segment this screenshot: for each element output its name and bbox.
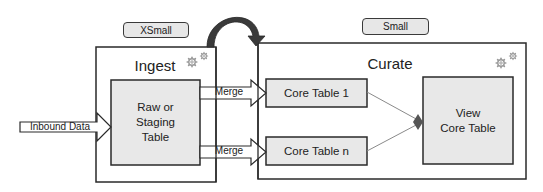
curved-promotion-arrow xyxy=(207,17,265,47)
small-size-badge: Small xyxy=(362,18,429,35)
raw-staging-table-label: Raw or Staging Table xyxy=(111,80,200,165)
ingest-title: Ingest xyxy=(125,57,185,74)
merge-top-label: Merge xyxy=(206,86,252,97)
xsmall-size-badge: XSmall xyxy=(123,22,189,38)
inbound-data-label: Inbound Data xyxy=(22,121,98,132)
core-table-1-label: Core Table 1 xyxy=(266,79,367,107)
merge-bottom-label: Merge xyxy=(206,145,252,156)
view-core-table-label: View Core Table xyxy=(423,77,513,164)
curate-title: Curate xyxy=(350,55,430,72)
core-table-n-label: Core Table n xyxy=(266,137,367,165)
